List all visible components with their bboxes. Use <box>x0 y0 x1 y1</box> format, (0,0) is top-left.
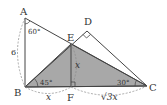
label-f: F <box>67 92 74 103</box>
label-e: E <box>67 32 74 43</box>
angle-arc-a-icon <box>25 21 30 24</box>
length-label-ab: 6 <box>11 48 16 57</box>
length-label-ef: x <box>75 60 80 70</box>
label-c: C <box>149 82 157 93</box>
length-label-bf: x <box>46 92 51 102</box>
label-d: D <box>84 16 92 27</box>
geometry-svg: A B C D E F 60° 45° 30° 6 x x √3x <box>0 0 167 105</box>
angle-label-b: 45° <box>40 79 52 87</box>
right-angle-d-icon <box>83 35 91 39</box>
label-b: B <box>14 87 21 98</box>
label-a: A <box>19 6 28 17</box>
angle-label-a: 60° <box>28 28 40 36</box>
geometry-figure: A B C D E F 60° 45° 30° 6 x x √3x <box>0 0 167 105</box>
angle-label-c: 30° <box>117 79 129 87</box>
length-label-fc: √3x <box>101 92 118 102</box>
length-arc-ab-icon <box>18 18 26 87</box>
